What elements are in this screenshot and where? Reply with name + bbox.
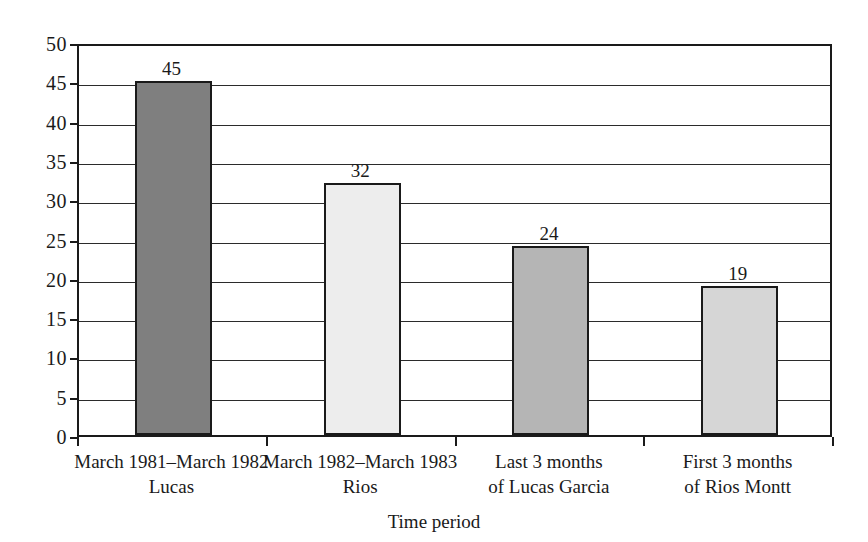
- y-axis-tick-mark: [70, 162, 79, 164]
- bar-chart: 50454035302520151050 45322419 March 1981…: [0, 0, 868, 542]
- bar: [512, 246, 589, 435]
- y-axis-tick-label: 35: [21, 152, 67, 172]
- bar-value-label: 45: [131, 59, 211, 78]
- x-axis-end-tick: [77, 437, 79, 446]
- bar: [135, 81, 212, 435]
- x-axis-separator: [455, 437, 457, 446]
- y-axis-tick-mark: [70, 358, 79, 360]
- y-axis-tick-label: 15: [21, 309, 67, 329]
- x-axis-separator: [643, 437, 645, 446]
- y-axis-tick-labels: 50454035302520151050: [9, 44, 67, 437]
- bar: [324, 183, 401, 435]
- y-axis-tick-label: 45: [21, 73, 67, 93]
- y-axis-tick-mark: [70, 123, 79, 125]
- category-line-2: of Rios Montt: [623, 474, 853, 499]
- y-axis-tick-mark: [70, 201, 79, 203]
- y-axis-tick-label: 25: [21, 231, 67, 251]
- y-axis-tick-mark: [70, 44, 79, 46]
- x-axis-separator: [266, 437, 268, 446]
- y-axis-tick-mark: [70, 398, 79, 400]
- y-axis-tick-label: 50: [21, 34, 67, 54]
- y-axis-tick-label: 10: [21, 348, 67, 368]
- category-line-1: Last 3 months: [495, 451, 603, 472]
- plot-area: [77, 44, 832, 437]
- y-axis-tick-label: 5: [21, 388, 67, 408]
- y-axis-tick-label: 30: [21, 191, 67, 211]
- bar-value-label: 32: [320, 161, 400, 180]
- y-axis-tick-label: 0: [21, 427, 67, 447]
- y-axis-tick-mark: [70, 83, 79, 85]
- bar: [701, 286, 778, 435]
- category-line-1: March 1982–March 1983: [263, 451, 457, 472]
- x-axis-end-tick: [832, 437, 834, 446]
- y-axis-tick-mark: [70, 280, 79, 282]
- x-axis-title: Time period: [0, 511, 868, 533]
- category-line-1: March 1981–March 1982: [74, 451, 268, 472]
- y-axis-tick-mark: [70, 319, 79, 321]
- bar-value-label: 19: [698, 264, 778, 283]
- bar-value-label: 24: [509, 224, 589, 243]
- category-line-1: First 3 months: [683, 451, 793, 472]
- x-axis-category-label: First 3 monthsof Rios Montt: [623, 449, 853, 499]
- y-axis-tick-mark: [70, 241, 79, 243]
- y-axis-tick-label: 40: [21, 113, 67, 133]
- y-axis-tick-label: 20: [21, 270, 67, 290]
